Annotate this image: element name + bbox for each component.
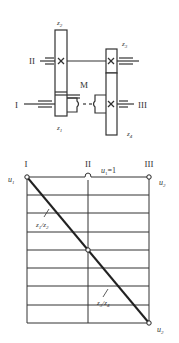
ratio-label-z3-z4: z3/z4	[96, 299, 110, 308]
top-ratio-label: u1=1	[101, 166, 116, 176]
gear-z2	[55, 30, 67, 116]
column-label-2: II	[85, 159, 91, 169]
label-z1: z1	[56, 124, 62, 133]
clutch-label: M	[80, 80, 88, 90]
ratio-label-z1-z2: z1/z2	[35, 221, 49, 230]
node-center	[86, 248, 90, 252]
label-z3: z3	[121, 40, 128, 49]
column-label-3: III	[145, 159, 154, 169]
node-u2-top	[147, 175, 151, 179]
label-z4: z4	[126, 130, 133, 139]
left-u1-label: u1	[8, 175, 15, 185]
leader-line	[103, 289, 108, 297]
right-u2-bottom-label: u2	[157, 325, 164, 335]
shaft-3-label: III	[138, 100, 147, 110]
node-u2-bottom	[147, 321, 151, 325]
speed-chart: I II III u1=1	[8, 159, 166, 335]
shaft-2-label: II	[29, 56, 35, 66]
node-u1	[25, 175, 29, 179]
column-label-1: I	[25, 159, 28, 169]
top-speed-line	[27, 173, 149, 177]
right-u2-top-label: u2	[159, 178, 166, 188]
clutch-left-icon	[67, 98, 79, 112]
label-z2: z2	[56, 19, 63, 28]
gear-transmission-diagram: z2 z3 z1 z4 M II I III I II III	[0, 0, 179, 343]
shaft-1-label: I	[15, 100, 18, 110]
clutch-right-icon	[94, 95, 107, 113]
